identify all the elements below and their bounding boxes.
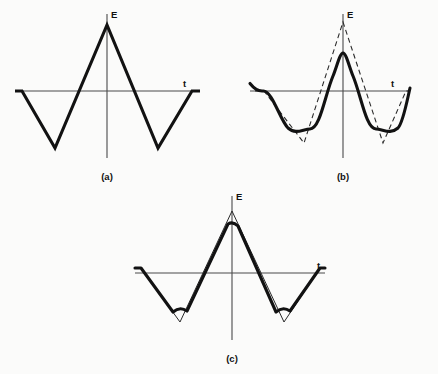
waveform-figure: E t (a) E t (b) E t (c)	[0, 0, 438, 374]
panel-a-t-label: t	[183, 78, 187, 89]
panel-c-rounded-triangular-wave	[135, 223, 325, 312]
panel-b-caption: (b)	[337, 171, 349, 182]
panel-b: E t (b)	[250, 9, 410, 182]
figure-canvas: E t (a) E t (b) E t (c)	[0, 0, 438, 374]
panel-a-caption: (a)	[101, 171, 113, 182]
panel-c-e-label: E	[236, 191, 242, 202]
panel-a-e-label: E	[111, 9, 117, 20]
panel-b-t-label: t	[391, 78, 395, 89]
panel-c: E t (c)	[135, 191, 325, 364]
panel-b-e-label: E	[347, 9, 353, 20]
panel-b-triangular-reference	[255, 22, 410, 143]
panel-b-sine-wave	[250, 53, 410, 131]
panel-a: E t (a)	[15, 9, 200, 182]
panel-c-caption: (c)	[226, 353, 238, 364]
